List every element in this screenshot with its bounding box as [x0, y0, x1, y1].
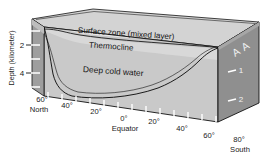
latitude-label-south-60: 60°	[203, 131, 214, 140]
diagram-canvas: Depth (kilometer) 2 4 1 2 Surface zone (…	[0, 0, 273, 156]
depth-tick-label-left-4: 4	[20, 69, 25, 78]
hemisphere-label-south: South	[230, 145, 250, 154]
latitude-label-north-20: 20°	[90, 107, 101, 116]
latitude-label-south-40: 40°	[176, 124, 187, 133]
latitude-label-north-40: 40°	[61, 101, 72, 110]
depth-tick-label-right-1: 1	[239, 66, 244, 75]
latitude-label-south-20: 20°	[148, 117, 159, 126]
latitude-label-north-60: 60°	[36, 95, 47, 104]
equator-label: Equator	[112, 124, 139, 133]
latitude-label-equator-0: 0°	[120, 114, 127, 123]
depth-tick-label-right-2: 2	[239, 95, 244, 104]
ocean-block-diagram: Depth (kilometer) 2 4 1 2 Surface zone (…	[0, 0, 273, 156]
hemisphere-label-north: North	[30, 105, 49, 114]
depth-axis-label: Depth (kilometer)	[7, 30, 16, 85]
depth-tick-label-left-2: 2	[20, 41, 25, 50]
latitude-label-south-80: 80°	[233, 135, 244, 144]
